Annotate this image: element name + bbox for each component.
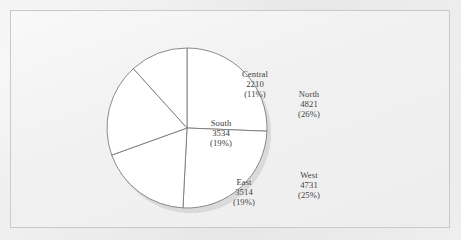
pie-label-east-name: East [216, 177, 272, 187]
pie-label-central-percent: (11%) [226, 89, 284, 99]
pie-label-east: East 3514 (19%) [216, 177, 272, 208]
pie-label-central: Central 2210 (11%) [226, 69, 284, 100]
pie-label-south: South 3534 (19%) [193, 118, 249, 149]
pie-label-south-name: South [193, 118, 249, 128]
chart-page: North 4821 (26%) West 4731 (25%) East 35… [0, 0, 461, 240]
pie-label-west-value: 4731 [279, 180, 339, 190]
pie-label-central-value: 2210 [226, 79, 284, 89]
pie-label-west: West 4731 (25%) [279, 170, 339, 201]
pie-label-south-percent: (19%) [193, 138, 249, 148]
pie-label-east-value: 3514 [216, 187, 272, 197]
pie-label-north-percent: (26%) [279, 109, 339, 119]
pie-label-north-name: North [279, 89, 339, 99]
pie-label-east-percent: (19%) [216, 197, 272, 207]
pie-label-west-name: West [279, 170, 339, 180]
pie-label-south-value: 3534 [193, 128, 249, 138]
pie-label-central-name: Central [226, 69, 284, 79]
pie-label-north-value: 4821 [279, 99, 339, 109]
chart-frame: North 4821 (26%) West 4731 (25%) East 35… [10, 10, 450, 228]
pie-label-west-percent: (25%) [279, 190, 339, 200]
pie-chart: North 4821 (26%) West 4731 (25%) East 35… [97, 32, 277, 222]
pie-label-north: North 4821 (26%) [279, 89, 339, 120]
